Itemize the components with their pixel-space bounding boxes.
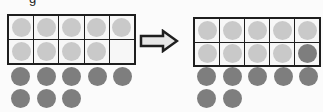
light-counter bbox=[223, 44, 242, 63]
light-counter bbox=[198, 21, 217, 40]
dark-counter bbox=[88, 67, 107, 86]
dark-counter bbox=[197, 89, 216, 108]
light-counter bbox=[37, 42, 56, 61]
ten-frame-cell bbox=[110, 40, 134, 63]
ten-frame-cell bbox=[220, 19, 244, 42]
ten-frame-cell bbox=[85, 16, 109, 39]
left-ten-frame bbox=[7, 14, 136, 65]
light-counter bbox=[273, 44, 292, 63]
dark-counter bbox=[197, 67, 216, 86]
light-counter bbox=[198, 44, 217, 63]
ten-frame-cell bbox=[245, 19, 269, 42]
dark-counter bbox=[62, 89, 81, 108]
dark-counter bbox=[223, 67, 242, 86]
dark-counter bbox=[11, 89, 30, 108]
ten-frame-cell bbox=[85, 40, 109, 63]
dark-counter bbox=[298, 44, 317, 63]
ten-frame-cell bbox=[245, 43, 269, 66]
light-counter bbox=[248, 21, 267, 40]
ten-frame-cell bbox=[220, 43, 244, 66]
light-counter bbox=[62, 18, 81, 37]
light-counter bbox=[87, 42, 106, 61]
dark-counter bbox=[248, 67, 267, 86]
right-ten-frame bbox=[193, 17, 321, 67]
ten-frame-cell bbox=[34, 16, 58, 39]
ten-frame-cell bbox=[59, 40, 83, 63]
ten-frame-cell bbox=[295, 43, 319, 66]
dark-counter bbox=[113, 67, 132, 86]
right-arrow-icon bbox=[139, 29, 179, 53]
light-counter bbox=[37, 18, 56, 37]
ten-frame-cell bbox=[110, 16, 134, 39]
dark-counter bbox=[37, 67, 56, 86]
dark-counter bbox=[62, 67, 81, 86]
light-counter bbox=[12, 42, 31, 61]
dark-counter bbox=[11, 67, 30, 86]
dark-counter bbox=[223, 89, 242, 108]
light-counter bbox=[298, 21, 317, 40]
light-counter bbox=[87, 18, 106, 37]
light-counter bbox=[273, 21, 292, 40]
ten-frame-cell bbox=[295, 19, 319, 42]
light-counter bbox=[12, 18, 31, 37]
light-counter bbox=[223, 21, 242, 40]
ten-frame-cell bbox=[9, 40, 33, 63]
dark-counter bbox=[299, 67, 318, 86]
partial-heading-glyph: g bbox=[29, 0, 36, 6]
ten-frame-cell bbox=[270, 19, 294, 42]
dark-counter bbox=[37, 89, 56, 108]
ten-frame-cell bbox=[59, 16, 83, 39]
ten-frame-cell bbox=[9, 16, 33, 39]
dark-counter bbox=[274, 67, 293, 86]
ten-frame-cell bbox=[270, 43, 294, 66]
ten-frame-cell bbox=[195, 19, 219, 42]
light-counter bbox=[62, 42, 81, 61]
ten-frame-cell bbox=[195, 43, 219, 66]
light-counter bbox=[248, 44, 267, 63]
ten-frame-cell bbox=[34, 40, 58, 63]
light-counter bbox=[112, 18, 131, 37]
